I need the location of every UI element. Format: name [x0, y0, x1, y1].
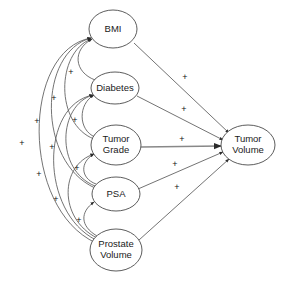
edge-psa-to-diabetes: [66, 95, 95, 186]
node-prostate[interactable]: ProstateVolume: [90, 229, 142, 271]
edge-sign-psa-to-grade: +: [74, 163, 79, 173]
edge-grade-to-bmi: [65, 39, 94, 139]
node-bmi[interactable]: BMI: [89, 10, 137, 48]
edge-grade-to-diabetes: [82, 95, 95, 137]
node-label-grade: Tumor: [102, 133, 129, 144]
node-label-prostate: Prostate: [98, 238, 133, 249]
node-label-diabetes: Diabetes: [96, 82, 134, 93]
edge-sign-bmi-to-tumorvol: +: [182, 72, 187, 82]
edge-psa-to-tumorvol: [138, 152, 223, 189]
node-label-psa: PSA: [106, 188, 126, 199]
edge-sign-psa-to-bmi: +: [34, 116, 39, 126]
edge-sign-prostate-to-tumorvol: +: [174, 182, 179, 192]
node-label-grade: Grade: [103, 144, 129, 155]
node-psa[interactable]: PSA: [92, 177, 140, 211]
edge-psa-to-grade: [84, 154, 96, 184]
edge-sign-diabetes-to-bmi: +: [68, 67, 73, 77]
edge-sign-grade-to-tumorvol: +: [179, 134, 184, 144]
edge-prostate-to-tumorvol: [139, 159, 229, 240]
edge-grade-to-tumorvol: [141, 146, 221, 147]
edge-sign-psa-to-tumorvol: +: [172, 159, 177, 169]
edge-sign-psa-to-diabetes: +: [49, 142, 54, 152]
edge-sign-diabetes-to-tumorvol: +: [181, 104, 186, 114]
node-label-prostate: Volume: [100, 249, 132, 260]
path-diagram-svg: BMIDiabetesTumorGradePSAProstateVolumeTu…: [0, 0, 283, 282]
node-label-tumorvol: Volume: [232, 144, 264, 155]
edge-sign-prostate-to-bmi: +: [19, 138, 24, 148]
edge-sign-prostate-to-grade: +: [53, 194, 58, 204]
edge-bmi-to-tumorvol: [134, 43, 229, 133]
node-diabetes[interactable]: Diabetes: [91, 72, 139, 104]
node-label-tumorvol: Tumor: [234, 133, 261, 144]
node-grade[interactable]: TumorGrade: [91, 125, 141, 165]
diagram-canvas: BMIDiabetesTumorGradePSAProstateVolumeTu…: [0, 0, 283, 282]
node-tumorvol[interactable]: TumorVolume: [221, 125, 275, 165]
edge-sign-grade-to-bmi: +: [51, 93, 56, 103]
edge-sign-prostate-to-diabetes: +: [36, 169, 41, 179]
edge-sign-prostate-to-psa: +: [76, 215, 81, 225]
edge-sign-grade-to-diabetes: +: [72, 115, 77, 125]
node-label-bmi: BMI: [105, 23, 122, 34]
